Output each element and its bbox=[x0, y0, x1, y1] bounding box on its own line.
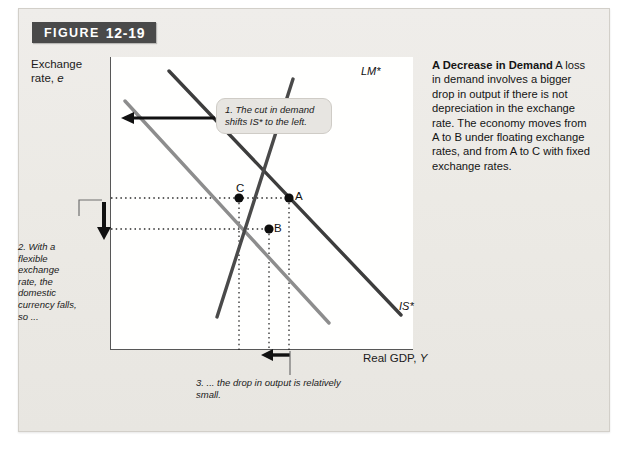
exchange-rate-down-arrow bbox=[78, 196, 114, 244]
y-axis-label-variable: e bbox=[57, 72, 63, 84]
point-label-b: B bbox=[274, 222, 282, 234]
annotation-2: 2. With a flexible exchange rate, the do… bbox=[18, 241, 80, 322]
point-label-c: C bbox=[236, 182, 244, 194]
curve-label-is: IS* bbox=[399, 300, 414, 312]
left-arrow-head bbox=[261, 349, 273, 361]
output-drop-arrow bbox=[258, 345, 304, 377]
down-arrow-head bbox=[97, 227, 111, 240]
caption-body: A loss in demand involves a bigger drop … bbox=[432, 59, 590, 172]
point-b-marker bbox=[264, 224, 273, 233]
y-axis-label-line2: rate, bbox=[31, 72, 57, 84]
y-axis-label: Exchange rate, e bbox=[31, 58, 105, 85]
point-c-marker bbox=[234, 193, 243, 202]
figure-page: FIGURE 12-19 Exchange rate, e Real GDP, … bbox=[0, 0, 629, 451]
x-axis-label-variable: Y bbox=[420, 352, 428, 364]
figure-banner: FIGURE 12-19 bbox=[32, 22, 156, 43]
figure-banner-number: 12-19 bbox=[106, 25, 146, 41]
caption-title: A Decrease in Demand bbox=[432, 59, 553, 71]
guide-lines bbox=[111, 198, 291, 350]
curve-label-lm: LM* bbox=[361, 65, 381, 77]
figure-banner-word: FIGURE bbox=[44, 26, 100, 40]
annotation-3: 3. ... the drop in output is relatively … bbox=[196, 377, 346, 400]
x-axis-label: Real GDP, Y bbox=[363, 352, 427, 364]
figure-caption: A Decrease in Demand A loss in demand in… bbox=[432, 58, 592, 173]
x-axis-label-text: Real GDP, bbox=[363, 352, 420, 364]
pointer-elbow-line bbox=[79, 200, 102, 216]
annotation-1: 1. The cut in demand shifts IS* to the l… bbox=[216, 98, 332, 134]
point-a-marker bbox=[284, 193, 293, 202]
y-axis-label-line1: Exchange bbox=[31, 58, 82, 70]
point-label-a: A bbox=[295, 190, 303, 202]
